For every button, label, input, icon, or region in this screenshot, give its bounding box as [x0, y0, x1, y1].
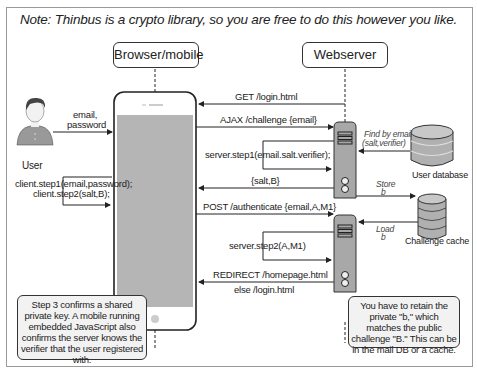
- load-b-label: b: [381, 232, 386, 242]
- step3-callout: Step 3 confirms a shared private key. A …: [17, 295, 147, 360]
- retain-b-callout: You have to retain the private "b," whic…: [348, 296, 460, 348]
- challenge-cache-icon: [418, 194, 446, 239]
- msg-redirect: REDIRECT /homepage.html: [213, 269, 328, 280]
- client-step2-label: client.step2(salt,B);: [33, 188, 110, 199]
- msg-post-authenticate: POST /authenticate {email,A,M1}: [203, 201, 336, 212]
- msg-salt-b: {salt,B}: [251, 175, 280, 186]
- msg-get-login: GET /login.html: [235, 91, 297, 102]
- server-icon-1: [334, 122, 356, 198]
- password-input-label: password: [67, 119, 106, 130]
- challenge-cache-label: Challenge cache: [405, 236, 469, 246]
- msg-server-step2: server.step2(A,M1): [229, 240, 306, 251]
- user-avatar-icon: [17, 98, 53, 145]
- msg-ajax-challenge: AJAX /challenge {email}: [220, 114, 317, 125]
- store-b-label: b: [381, 187, 386, 197]
- msg-else-login: else /login.html: [234, 284, 294, 295]
- salt-verifier-label: (salt,verifier): [362, 138, 406, 148]
- msg-server-step1: server.step1(email.salt.verifier);: [205, 149, 330, 160]
- user-database-label: User database: [412, 170, 468, 180]
- server-icon-2: [334, 215, 356, 292]
- user-database-icon: [411, 125, 453, 166]
- user-label: User: [22, 160, 42, 171]
